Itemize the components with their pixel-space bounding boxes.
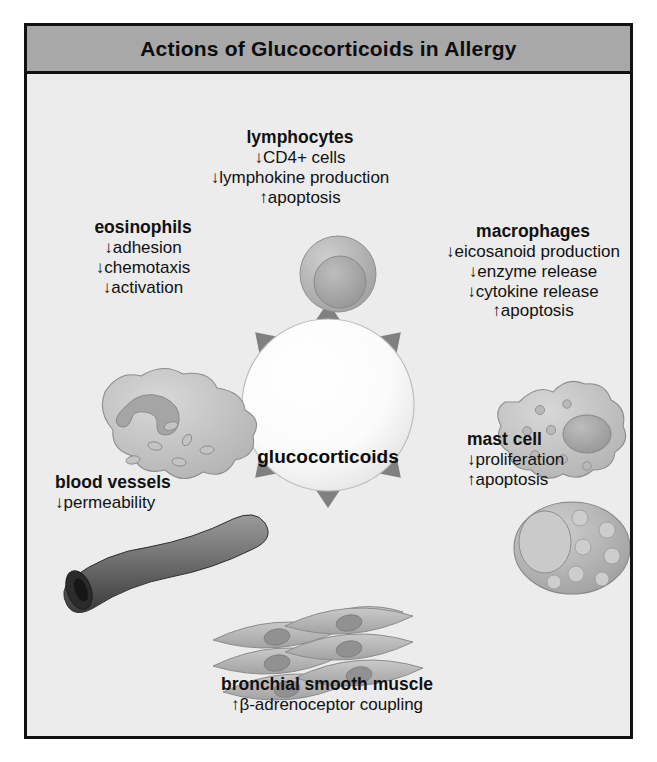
effect-mast-cell-1: ↑apoptosis	[467, 470, 630, 490]
effect-lymphocytes-2: ↑apoptosis	[155, 188, 445, 208]
page-title: Actions of Glucocorticoids in Allergy	[140, 37, 517, 61]
effect-mast-cell-0: ↓proliferation	[467, 450, 630, 470]
label-mast-cell: mast cell ↓proliferation ↑apoptosis	[467, 429, 630, 490]
lymphocyte-cell-icon	[300, 236, 376, 312]
effect-macrophages-2: ↓cytokine release	[419, 282, 630, 302]
heading-macrophages: macrophages	[419, 221, 630, 241]
label-eosinophils: eosinophils ↓adhesion ↓chemotaxis ↓activ…	[45, 217, 241, 297]
heading-blood-vessels: blood vessels	[55, 472, 245, 492]
center-label: glucocorticoids	[223, 446, 433, 468]
heading-eosinophils: eosinophils	[45, 217, 241, 237]
heading-lymphocytes: lymphocytes	[155, 127, 445, 147]
heading-mast-cell: mast cell	[467, 429, 630, 449]
heading-bronchial-smooth-muscle: bronchial smooth muscle	[177, 674, 477, 694]
figure-title-bar: Actions of Glucocorticoids in Allergy	[27, 26, 630, 74]
effect-eosinophils-1: ↓chemotaxis	[45, 258, 241, 278]
label-macrophages: macrophages ↓eicosanoid production ↓enzy…	[419, 221, 630, 321]
figure-frame: Actions of Glucocorticoids in Allergy	[24, 23, 633, 739]
effect-macrophages-1: ↓enzyme release	[419, 262, 630, 282]
effect-macrophages-3: ↑apoptosis	[419, 301, 630, 321]
diagram-canvas: glucocorticoids lymphocytes ↓CD4+ cells …	[27, 74, 630, 736]
effect-eosinophils-0: ↓adhesion	[45, 238, 241, 258]
label-blood-vessels: blood vessels ↓permeability	[55, 472, 245, 513]
effect-eosinophils-2: ↓activation	[45, 278, 241, 298]
label-lymphocytes: lymphocytes ↓CD4+ cells ↓lymphokine prod…	[155, 127, 445, 207]
effect-blood-vessels-0: ↓permeability	[55, 493, 245, 513]
effect-lymphocytes-0: ↓CD4+ cells	[155, 148, 445, 168]
mast-cell-icon	[514, 502, 630, 594]
label-bronchial-smooth-muscle: bronchial smooth muscle ↑β-adrenoceptor …	[177, 674, 477, 715]
effect-macrophages-0: ↓eicosanoid production	[419, 242, 630, 262]
effect-bronchial-smooth-muscle-0: ↑β-adrenoceptor coupling	[177, 695, 477, 715]
effect-lymphocytes-1: ↓lymphokine production	[155, 168, 445, 188]
blood-vessel-icon	[61, 515, 268, 613]
